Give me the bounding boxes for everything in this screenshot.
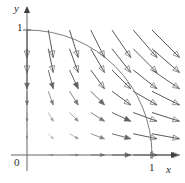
- field-arrow: [70, 91, 79, 105]
- field-arrow: [70, 134, 79, 139]
- y-axis-label: y: [14, 3, 19, 14]
- field-arrow: [133, 30, 157, 58]
- vector-field-figure: y x 1 1 0: [0, 0, 185, 183]
- field-arrow: [133, 134, 157, 140]
- field-arrow: [112, 91, 131, 105]
- origin-label: 0: [14, 157, 20, 168]
- field-arrow: [91, 91, 105, 105]
- field-arrow: [133, 91, 157, 105]
- field-arrow: [152, 30, 180, 58]
- field-arrow: [152, 134, 180, 141]
- x-axis-label: x: [166, 164, 171, 175]
- y-axis-arrowhead: [24, 6, 30, 13]
- field-arrow: [112, 30, 131, 58]
- field-arrow: [48, 49, 54, 73]
- field-arrow: [133, 70, 157, 89]
- field-arrow: [91, 70, 105, 89]
- field-arrow: [112, 134, 131, 140]
- field-arrow: [152, 91, 180, 105]
- field-arrow: [91, 134, 105, 139]
- field-arrow: [91, 113, 105, 122]
- x-axis-tick-label-one: 1: [149, 162, 155, 173]
- field-arrow: [48, 134, 53, 139]
- field-arrow: [152, 70, 180, 89]
- field-arrow: [48, 91, 53, 105]
- y-axis-tick-label-one: 1: [17, 22, 23, 33]
- vector-arrow-layer: [24, 30, 179, 158]
- field-arrow: [48, 113, 53, 122]
- field-arrow: [91, 30, 105, 58]
- plot-canvas: [0, 0, 185, 183]
- field-arrow: [112, 113, 131, 122]
- field-arrow: [112, 49, 131, 73]
- field-arrow: [70, 113, 79, 122]
- field-arrow: [70, 70, 79, 89]
